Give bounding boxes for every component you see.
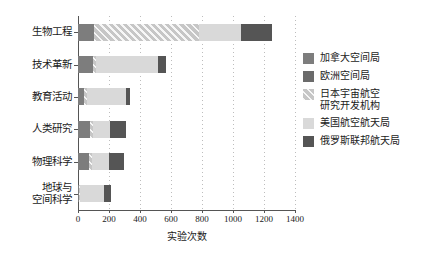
x-tick-mark — [264, 210, 265, 213]
legend-item: 美国航空航天局 — [303, 117, 436, 129]
category-label: 生物工程 — [0, 26, 72, 38]
legend-swatch — [303, 89, 314, 100]
x-tick-mark — [140, 210, 141, 213]
category-label: 技术革新 — [0, 59, 72, 71]
x-tick-label: 1400 — [275, 214, 315, 225]
category-label: 教育活动 — [0, 91, 72, 103]
bar-segment — [78, 24, 94, 41]
bar-segment — [110, 121, 126, 138]
bar-segment — [78, 121, 90, 138]
gridline — [233, 16, 234, 210]
bar-segment — [96, 56, 158, 73]
bar-segment — [241, 24, 272, 41]
category-label: 人类研究 — [0, 123, 72, 135]
bar-row — [78, 24, 295, 41]
bar-segment — [94, 24, 199, 41]
category-label: 地球与 空间科学 — [0, 182, 72, 205]
legend-item: 欧洲空间局 — [303, 70, 436, 82]
x-tick-mark — [78, 210, 79, 213]
x-tick-mark — [202, 210, 203, 213]
gridline — [202, 16, 203, 210]
bar-segment — [87, 88, 126, 105]
legend-item: 日本宇宙航空 研究开发机构 — [303, 88, 436, 111]
legend-label: 俄罗斯联邦航天局 — [320, 135, 400, 147]
x-tick-mark — [171, 210, 172, 213]
category-label: 物理科学 — [0, 156, 72, 168]
gridline — [140, 16, 141, 210]
legend-label: 美国航空航天局 — [320, 117, 390, 129]
bar-segment — [199, 24, 241, 41]
gridline — [171, 16, 172, 210]
bar-row — [78, 88, 295, 105]
x-tick-mark — [109, 210, 110, 213]
bar-segment — [78, 153, 89, 170]
legend: 加拿大空间局欧洲空间局日本宇宙航空 研究开发机构美国航空航天局俄罗斯联邦航天局 — [303, 52, 436, 153]
legend-swatch — [303, 136, 314, 147]
legend-label: 欧洲空间局 — [320, 70, 370, 82]
stacked-bar-chart: 0200400600800100012001400 生物工程技术革新教育活动人类… — [0, 0, 440, 253]
legend-swatch — [303, 118, 314, 129]
gridline — [109, 16, 110, 210]
x-tick-mark — [295, 210, 296, 213]
bar-segment — [78, 56, 93, 73]
bar-segment — [80, 185, 104, 202]
bar-row — [78, 185, 295, 202]
bar-row — [78, 121, 295, 138]
y-axis-line — [78, 16, 79, 210]
x-tick-mark — [233, 210, 234, 213]
legend-item: 俄罗斯联邦航天局 — [303, 135, 436, 147]
bar-row — [78, 56, 295, 73]
bar-segment — [92, 153, 109, 170]
bar-segment — [104, 185, 110, 202]
bar-segment — [158, 56, 167, 73]
gridline — [264, 16, 265, 210]
bar-segment — [109, 153, 124, 170]
bar-segment — [126, 88, 130, 105]
bar-row — [78, 153, 295, 170]
legend-label: 日本宇宙航空 研究开发机构 — [320, 88, 380, 111]
legend-swatch — [303, 71, 314, 82]
legend-label: 加拿大空间局 — [320, 52, 380, 64]
bar-segment — [93, 121, 110, 138]
x-axis-line — [78, 210, 295, 211]
x-axis-title: 实验次数 — [78, 228, 295, 243]
legend-item: 加拿大空间局 — [303, 52, 436, 64]
gridline — [295, 16, 296, 210]
legend-swatch — [303, 53, 314, 64]
